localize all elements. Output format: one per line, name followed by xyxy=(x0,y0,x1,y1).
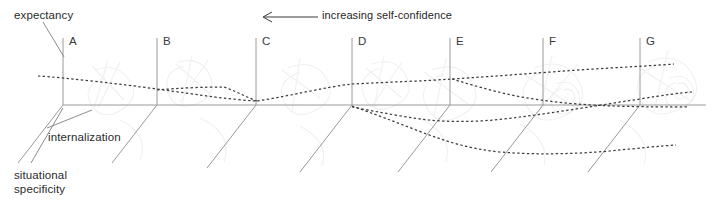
axis-letter-g: G xyxy=(646,34,655,48)
curve-descend-from-D xyxy=(352,106,676,154)
diagram-canvas xyxy=(0,0,720,202)
label-situational-specificity: situational specificity xyxy=(14,168,67,196)
self-confidence-arrow xyxy=(263,12,318,22)
figure-root: expectancy internalization situational s… xyxy=(0,0,720,202)
diagonal-axis-E xyxy=(398,105,450,172)
axis-group-B xyxy=(112,38,157,163)
axis-letter-b: B xyxy=(163,34,171,48)
diagonal-axis-C xyxy=(207,105,256,168)
label-expectancy: expectancy xyxy=(14,8,73,22)
curve-low-rising xyxy=(352,92,692,121)
axis-group-A xyxy=(18,38,63,163)
axis-letter-a: A xyxy=(69,34,77,48)
diagonal-axis-G xyxy=(588,105,640,172)
axis-letter-e: E xyxy=(456,34,464,48)
axis-letter-c: C xyxy=(262,34,270,48)
label-increasing-self-confidence: increasing self-confidence xyxy=(322,9,452,22)
watermark xyxy=(88,50,697,166)
internalization-leader-line xyxy=(47,110,92,128)
diagonal-axis-D xyxy=(300,105,352,172)
axis-group-C xyxy=(207,38,256,168)
axis-letter-d: D xyxy=(358,34,366,48)
label-internalization: internalization xyxy=(48,130,121,144)
expectancy-leader-line xyxy=(43,22,64,57)
axis-letter-f: F xyxy=(549,34,556,48)
